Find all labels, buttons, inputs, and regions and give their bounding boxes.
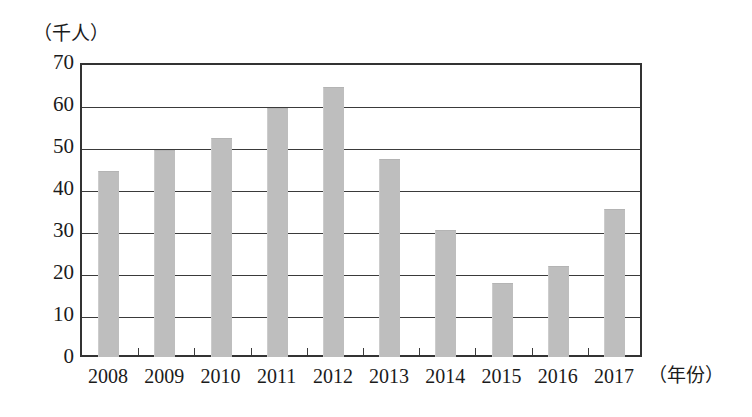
bar — [211, 138, 232, 357]
x-axis-tick-label: 2015 — [474, 364, 530, 388]
bar — [492, 283, 513, 358]
y-axis-tick-label: 40 — [28, 178, 74, 199]
y-axis-tick-label: 70 — [28, 52, 74, 73]
y-axis-tick-label: 50 — [28, 136, 74, 157]
bar-series-group — [80, 63, 642, 357]
x-axis-tick-label-group: 2008200920102011201220132014201520162017 — [80, 364, 642, 394]
y-axis-tick-label: 10 — [28, 304, 74, 325]
x-axis-tick-label: 2009 — [136, 364, 192, 388]
bar — [267, 108, 288, 357]
y-axis-tick-label: 30 — [28, 220, 74, 241]
y-axis-tick-label-group: 706050403020100 — [24, 63, 74, 357]
x-axis-tick-label: 2016 — [530, 364, 586, 388]
bar — [548, 266, 569, 357]
bar-chart-figure: （千人） 706050403020100 2008200920102011201… — [0, 0, 752, 417]
x-axis-tick-label: 2017 — [586, 364, 642, 388]
bar — [604, 209, 625, 357]
y-axis-unit-label: （千人） — [33, 18, 109, 45]
x-axis-tick-label: 2011 — [249, 364, 305, 388]
x-axis-tick-label: 2008 — [80, 364, 136, 388]
y-axis-tick-label: 60 — [28, 94, 74, 115]
bar — [435, 230, 456, 357]
x-axis-tick-label: 2014 — [417, 364, 473, 388]
x-axis-tick-label: 2010 — [193, 364, 249, 388]
bar — [379, 159, 400, 357]
x-axis-tick-label: 2013 — [361, 364, 417, 388]
bar — [98, 171, 119, 357]
bar — [323, 87, 344, 357]
x-axis-title: （年份） — [648, 364, 724, 388]
y-axis-tick-label: 20 — [28, 262, 74, 283]
x-axis-tick-label: 2012 — [305, 364, 361, 388]
y-axis-tick-label: 0 — [28, 346, 74, 367]
bar — [154, 150, 175, 357]
